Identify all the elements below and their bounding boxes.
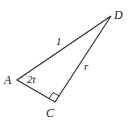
side-label-CD: r [84, 60, 89, 72]
vertex-label-A: A [3, 73, 12, 87]
angle-label-A: 2t [27, 73, 37, 85]
vertex-label-C: C [46, 106, 55, 120]
side-label-AD: 1 [56, 35, 62, 47]
vertex-label-D: D [113, 8, 123, 22]
triangle-diagram: A C D 1 r 2t [0, 0, 128, 123]
triangle-ACD [17, 16, 111, 102]
